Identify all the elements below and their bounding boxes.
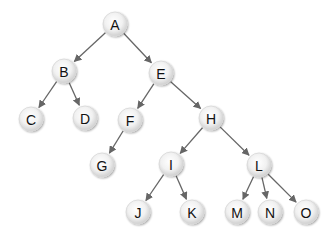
edge-l-o [268, 174, 296, 202]
edge-l-n [262, 178, 267, 199]
edge-b-d [69, 83, 79, 105]
nodes-layer: ABECDFHGILJKMNO [19, 12, 318, 224]
node-label: H [206, 111, 216, 127]
node-label: D [80, 111, 90, 127]
edge-a-e [124, 34, 151, 63]
node-label: L [255, 158, 263, 174]
node-label: F [126, 113, 135, 129]
tree-node-d: D [73, 106, 97, 130]
node-label: C [26, 112, 36, 128]
edge-b-c [39, 82, 57, 108]
edge-a-b [74, 33, 105, 62]
node-label: J [135, 205, 142, 221]
edge-i-k [176, 176, 186, 199]
edge-e-f [138, 84, 154, 108]
edge-i-j [146, 175, 164, 201]
tree-node-i: I [159, 152, 183, 176]
node-label: M [231, 205, 243, 221]
tree-node-m: M [225, 200, 249, 224]
node-label: O [301, 205, 312, 221]
node-label: N [265, 205, 275, 221]
tree-node-f: F [118, 108, 142, 132]
node-label: G [97, 158, 108, 174]
tree-node-e: E [149, 61, 173, 85]
node-label: B [59, 64, 68, 80]
tree-node-n: N [258, 200, 282, 224]
tree-node-o: O [294, 200, 318, 224]
tree-node-a: A [103, 12, 127, 36]
edge-e-h [171, 82, 201, 109]
edge-f-g [109, 131, 123, 153]
tree-node-b: B [52, 59, 76, 83]
node-label: E [156, 66, 165, 82]
edge-h-i [180, 128, 202, 154]
node-label: I [169, 157, 173, 173]
tree-node-k: K [180, 200, 204, 224]
tree-node-g: G [90, 153, 114, 177]
tree-node-h: H [199, 106, 223, 130]
tree-node-c: C [19, 107, 43, 131]
node-label: A [110, 17, 120, 33]
tree-node-j: J [126, 200, 150, 224]
node-label: K [187, 205, 197, 221]
tree-diagram: ABECDFHGILJKMNO [0, 0, 334, 236]
edge-l-m [243, 177, 254, 200]
edge-h-l [220, 127, 249, 155]
tree-node-l: L [247, 153, 271, 177]
